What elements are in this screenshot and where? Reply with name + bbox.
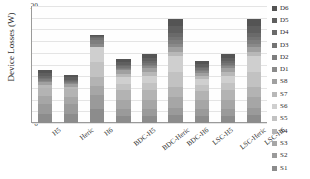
bar-segment-s1	[64, 114, 78, 123]
bar-h5	[38, 70, 52, 123]
bar-segment-d5	[247, 26, 261, 33]
bar-segment-s6	[168, 56, 182, 71]
bar-segment-s6	[90, 47, 104, 62]
bar-segment-d6	[168, 19, 182, 26]
legend-label: D6	[280, 5, 289, 12]
legend-swatch-icon	[272, 6, 277, 11]
bar-segment-s3	[116, 100, 130, 109]
bar-segment-s4	[195, 91, 209, 100]
bar-segment-s6	[247, 56, 261, 71]
legend-swatch-icon	[272, 104, 277, 109]
legend-label: S8	[280, 78, 287, 85]
bar-segment-s3	[221, 100, 235, 109]
bar-segment-s2	[221, 109, 235, 116]
x-axis-tick-label: LSC-Heric	[238, 126, 267, 151]
bar-segment-s4	[64, 89, 78, 97]
bar-bdc-h6	[168, 19, 182, 123]
y-axis-title: Device Losses (W)	[6, 0, 16, 102]
bar-segment-d5	[168, 26, 182, 33]
bar-series-group	[32, 6, 267, 123]
legend-swatch-icon	[272, 153, 277, 158]
legend-swatch-icon	[272, 67, 277, 72]
bar-segment-s4	[90, 77, 104, 86]
bar-segment-s3	[64, 97, 78, 105]
bar-bdc-h5	[116, 59, 130, 123]
legend-item-d2: D2	[272, 51, 310, 63]
bar-segment-s2	[116, 109, 130, 116]
legend-label: S6	[280, 103, 287, 110]
bar-segment-s6	[142, 76, 156, 83]
legend-item-d5: D5	[272, 14, 310, 26]
bar-segment-s2	[64, 104, 78, 113]
bar-segment-s2	[142, 109, 156, 116]
stacked-bar-chart: Device Losses (W) 20181614121086420 H5He…	[0, 0, 310, 179]
legend-label: D2	[280, 54, 289, 61]
bar-segment-s6	[221, 76, 235, 83]
bar-segment-s4	[142, 90, 156, 99]
legend-item-d1: D1	[272, 63, 310, 75]
bar-segment-s5	[221, 83, 235, 90]
legend-swatch-icon	[272, 166, 277, 171]
bar-heric	[64, 75, 78, 123]
legend-item-s6: S6	[272, 100, 310, 112]
legend-label: D1	[280, 66, 289, 73]
legend-label: S7	[280, 91, 287, 98]
legend-label: S1	[280, 165, 287, 172]
x-axis-tick-label: H6	[103, 126, 115, 138]
bar-segment-s2	[168, 108, 182, 116]
legend-swatch-icon	[272, 116, 277, 121]
legend-swatch-icon	[272, 30, 277, 35]
legend-swatch-icon	[272, 129, 277, 134]
bar-segment-s4	[38, 88, 52, 96]
bar-lsc-h6	[247, 19, 261, 123]
bar-segment-s2	[195, 109, 209, 116]
gridline	[32, 123, 267, 124]
legend-swatch-icon	[272, 55, 277, 60]
bar-h6	[90, 35, 104, 123]
bar-segment-d6	[247, 19, 261, 26]
bar-segment-s2	[247, 108, 261, 116]
legend-label: S5	[280, 115, 287, 122]
legend-swatch-icon	[272, 18, 277, 23]
legend-label: D4	[280, 29, 289, 36]
bar-segment-s1	[221, 116, 235, 123]
bar-segment-s1	[195, 116, 209, 123]
bar-lsc-heric	[221, 54, 235, 123]
bar-segment-s4	[116, 90, 130, 99]
bar-segment-s1	[38, 114, 52, 123]
bar-segment-s1	[90, 109, 104, 123]
bar-segment-s3	[38, 96, 52, 104]
legend-item-s8: S8	[272, 76, 310, 88]
bar-segment-s4	[168, 87, 182, 98]
legend-label: D5	[280, 17, 289, 24]
legend-swatch-icon	[272, 79, 277, 84]
x-axis-tick-label: LSC-H5	[211, 126, 235, 147]
legend: D6D5D4D3D2D1S8S7S6S5S4S3S2S1	[272, 2, 310, 177]
legend-item-s7: S7	[272, 88, 310, 100]
x-axis-tick-label: Heric	[78, 126, 95, 142]
x-axis-tick-label: BDC-Heric	[160, 126, 190, 152]
bar-segment-s4	[221, 90, 235, 99]
bar-segment-s1	[168, 115, 182, 123]
bar-segment-s5	[90, 62, 104, 77]
bar-segment-s3	[195, 100, 209, 109]
bar-segment-s2	[90, 95, 104, 109]
legend-item-d4: D4	[272, 27, 310, 39]
bar-bdc-heric	[142, 54, 156, 123]
legend-item-s4: S4	[272, 125, 310, 137]
bar-segment-s3	[247, 97, 261, 108]
bar-segment-s5	[247, 72, 261, 87]
legend-item-d3: D3	[272, 39, 310, 51]
bar-segment-s3	[90, 86, 104, 95]
x-axis-tick-label: BDC-H5	[133, 126, 158, 148]
bar-segment-s5	[168, 72, 182, 87]
legend-label: S4	[280, 128, 287, 135]
legend-swatch-icon	[272, 141, 277, 146]
legend-label: S3	[280, 140, 287, 147]
bar-segment-s1	[247, 115, 261, 123]
bar-segment-s5	[142, 83, 156, 90]
legend-swatch-icon	[272, 92, 277, 97]
legend-label: D3	[280, 42, 289, 49]
legend-item-d6: D6	[272, 2, 310, 14]
bar-segment-s2	[38, 104, 52, 113]
